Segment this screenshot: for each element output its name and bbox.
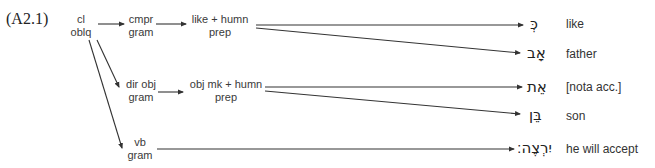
gloss: [nota acc.] [566, 80, 621, 94]
gloss: father [566, 47, 597, 61]
node-cmpr-gram: cmpr gram [126, 13, 156, 39]
arrow-objmk-to-ben [265, 91, 520, 114]
hebrew-word: אָב [527, 44, 546, 62]
node-line1: like + humn [186, 13, 254, 26]
diagram-connectors [0, 0, 655, 168]
example-number: (A2.1) [6, 10, 48, 28]
node-dir-obj-gram: dir obj gram [122, 78, 160, 104]
hebrew-word: אֵת [527, 78, 547, 96]
arrow-like-to-av [256, 28, 520, 53]
node-line2: gram [126, 26, 156, 39]
node-line2: gram [122, 91, 160, 104]
gloss: he will accept [566, 142, 638, 156]
hebrew-word: בֵּן [529, 106, 542, 124]
node-cl-oblq: cl oblq [68, 13, 94, 39]
node-vb-gram: vb gram [124, 136, 156, 162]
node-line2: prep [186, 26, 254, 39]
gloss: like [566, 17, 584, 31]
node-obj-mk-humn-prep: obj mk + humn prep [186, 78, 266, 104]
node-line1: cmpr [126, 13, 156, 26]
node-line2: prep [186, 91, 266, 104]
gloss: son [566, 109, 585, 123]
node-line2: oblq [68, 26, 94, 39]
node-like-humn-prep: like + humn prep [186, 13, 254, 39]
arrow-cl-to-vb [89, 40, 122, 148]
node-line1: dir obj [122, 78, 160, 91]
hebrew-word: יִרְצֶה׃ [517, 139, 552, 157]
node-line1: vb [124, 136, 156, 149]
node-line2: gram [124, 149, 156, 162]
arrow-cl-to-dirobj [97, 40, 119, 87]
node-line1: obj mk + humn [186, 78, 266, 91]
hebrew-word: כְּ [530, 15, 538, 33]
node-line1: cl [68, 13, 94, 26]
